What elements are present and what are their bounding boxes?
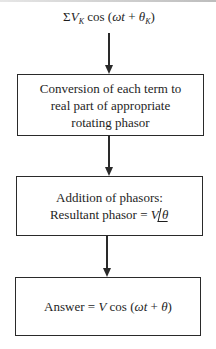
omega-t: ωt bbox=[112, 9, 125, 24]
arrow-shaft bbox=[108, 33, 109, 66]
arrow-down-icon bbox=[105, 65, 113, 74]
angle-theta: θ bbox=[162, 208, 168, 221]
step-2-line-2: Resultant phasor = Vθ bbox=[50, 206, 169, 223]
step-1-line-2: real part of appropriate bbox=[51, 97, 170, 114]
plus-sign: + bbox=[125, 9, 139, 24]
top-border-line bbox=[0, 0, 216, 2]
step-2-addition-box: Addition of phasors: Resultant phasor = … bbox=[16, 176, 203, 236]
angle-symbol-icon: θ bbox=[157, 208, 170, 222]
answer-close: ) bbox=[168, 299, 172, 314]
step-1-conversion-box: Conversion of each term to real part of … bbox=[17, 74, 204, 136]
step-1-line-3: rotating phasor bbox=[71, 114, 149, 131]
arrow-down-icon bbox=[105, 167, 113, 176]
arrow-shaft bbox=[108, 136, 109, 168]
arrow-shaft bbox=[106, 236, 107, 269]
arrow-down-icon bbox=[103, 268, 111, 277]
close-paren: ) bbox=[151, 9, 155, 24]
step-3-answer-box: Answer = V cos (ωt + θ) bbox=[15, 277, 201, 336]
answer-plus: + bbox=[147, 299, 161, 314]
sigma-symbol: Σ bbox=[63, 9, 71, 24]
answer-label: Answer = bbox=[44, 299, 98, 314]
answer-expression: Answer = V cos (ωt + θ) bbox=[44, 298, 172, 315]
input-expression: ΣVK cos (ωt + θK) bbox=[0, 9, 216, 26]
step-1-line-1: Conversion of each term to bbox=[40, 80, 182, 97]
cos-function: cos ( bbox=[84, 9, 112, 24]
answer-cos: cos ( bbox=[106, 299, 134, 314]
resultant-label: Resultant phasor = bbox=[50, 207, 151, 222]
v-variable: V bbox=[71, 9, 79, 24]
step-2-line-1: Addition of phasors: bbox=[56, 189, 163, 206]
answer-omega-t: ωt bbox=[135, 299, 148, 314]
